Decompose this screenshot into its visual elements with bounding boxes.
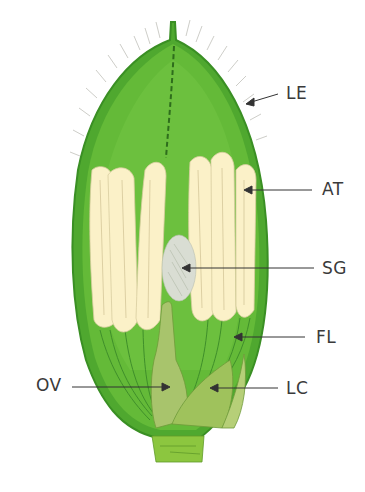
- label-filament: FL: [316, 327, 336, 347]
- label-stigma: SG: [322, 258, 347, 278]
- stem: [152, 436, 204, 462]
- anthers-left: [90, 162, 166, 332]
- label-ovary: OV: [36, 375, 62, 395]
- label-anther: AT: [322, 179, 344, 199]
- label-lemma: LE: [286, 83, 307, 103]
- floret-diagram: [0, 0, 365, 492]
- label-lodicule: LC: [286, 378, 308, 398]
